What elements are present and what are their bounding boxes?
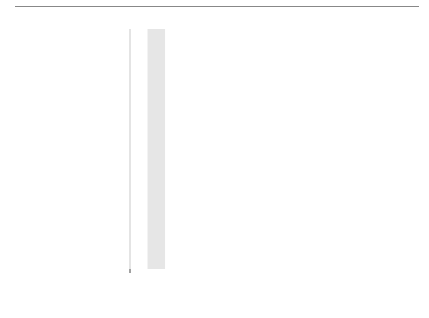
stable-band: [148, 29, 166, 269]
binding-energy-chart: [0, 0, 429, 318]
